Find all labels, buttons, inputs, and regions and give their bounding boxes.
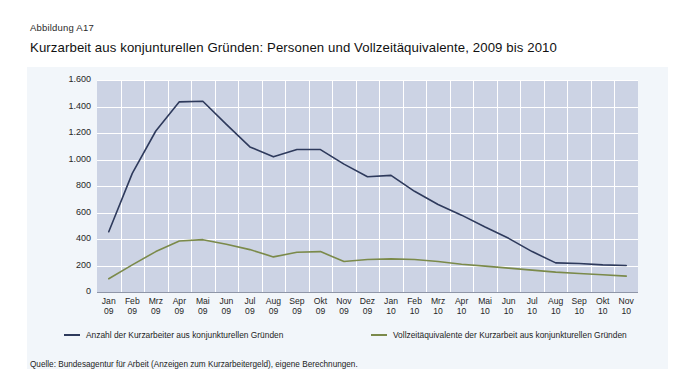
legend-label-vollzeitaequivalente: Vollzeitäquivalente der Kurzarbeit aus k…	[393, 330, 627, 340]
source-note: Quelle: Bundesagentur für Arbeit (Anzeig…	[30, 360, 358, 369]
legend-item-anzahl: Anzahl der Kurzarbeiter aus konjunkturel…	[64, 330, 283, 340]
legend-label-anzahl: Anzahl der Kurzarbeiter aus konjunkturel…	[86, 330, 283, 340]
y-axis-tick-label: 0	[35, 286, 91, 296]
x-axis-line	[97, 292, 638, 293]
y-axis-tick-label: 1.600	[35, 74, 91, 84]
x-axis-tick-label: Nov10	[609, 296, 643, 316]
y-axis-tick-label: 200	[35, 260, 91, 270]
y-axis-tick-label: 800	[35, 180, 91, 190]
y-axis-tick-label: 1.000	[35, 154, 91, 164]
page-title: Kurzarbeit aus konjunturellen Gründen: P…	[30, 40, 557, 55]
y-axis-tick-label: 1.400	[35, 101, 91, 111]
legend-swatch-green	[371, 334, 387, 336]
y-axis-tick-label: 400	[35, 233, 91, 243]
y-axis-tick-label: 1.200	[35, 127, 91, 137]
plot-area	[97, 80, 638, 292]
figure-root: Abbildung A17 Kurzarbeit aus konjunturel…	[0, 0, 695, 392]
legend: Anzahl der Kurzarbeiter aus konjunkturel…	[64, 330, 644, 346]
series-lines	[97, 80, 638, 292]
legend-swatch-blue	[64, 334, 80, 336]
figure-label: Abbildung A17	[30, 22, 94, 33]
y-axis-tick-label: 600	[35, 207, 91, 217]
legend-item-vollzeitaequivalente: Vollzeitäquivalente der Kurzarbeit aus k…	[371, 330, 627, 340]
